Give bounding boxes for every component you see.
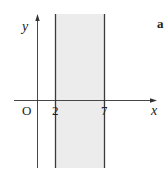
tick-label-7: 7 [101,104,108,117]
shaded-region [55,14,104,168]
panel-label: a [157,17,164,30]
x-axis-label: x [151,104,157,118]
tick-label-2: 2 [52,104,59,117]
y-axis-label: y [22,20,28,34]
y-axis-arrow-icon [35,14,39,21]
origin-label: O [22,104,31,117]
figure-frame: y a O 2 7 x [0,0,168,178]
